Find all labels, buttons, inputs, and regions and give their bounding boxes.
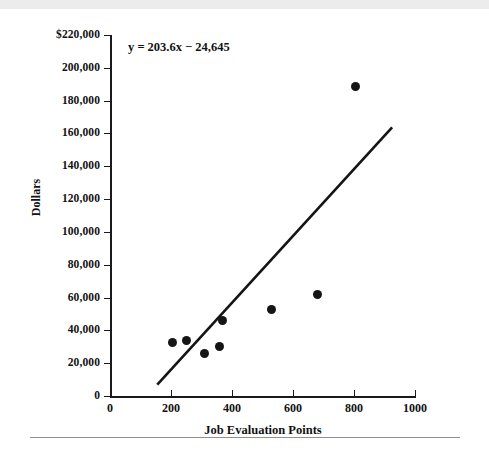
- y-axis-tick-label: 140,000: [0, 159, 100, 171]
- x-axis-tick-label: 600: [263, 401, 323, 416]
- y-axis-tick: [104, 232, 110, 233]
- x-axis-tick-label: 200: [141, 401, 201, 416]
- y-axis-tick: [104, 330, 110, 331]
- page-bottom-rule: [30, 437, 460, 438]
- y-axis-tick: [104, 396, 110, 397]
- y-axis-tick-label-wrap: 120,000: [0, 192, 100, 206]
- y-axis-tick-label-wrap: $220,000: [0, 28, 100, 42]
- y-axis-tick-label-wrap: 160,000: [0, 126, 100, 140]
- regression-equation-annotation: y = 203.6x − 24,645: [128, 40, 230, 55]
- y-axis-tick-label: 120,000: [0, 192, 100, 204]
- y-axis-tick-label: 40,000: [0, 323, 100, 335]
- y-axis-tick-label: 100,000: [0, 225, 100, 237]
- x-axis-tick: [415, 390, 416, 396]
- y-axis-tick: [104, 265, 110, 266]
- data-point: [313, 290, 322, 299]
- y-axis-tick-label-wrap: 140,000: [0, 159, 100, 173]
- y-axis-tick-label-wrap: 100,000: [0, 225, 100, 239]
- y-axis-tick: [104, 166, 110, 167]
- data-point: [351, 82, 360, 91]
- y-axis-tick: [104, 199, 110, 200]
- data-point: [182, 336, 191, 345]
- x-axis-tick: [171, 390, 172, 396]
- y-axis-tick-label: 200,000: [0, 61, 100, 73]
- y-axis-tick-label-wrap: 180,000: [0, 94, 100, 108]
- y-axis-tick-label-wrap: 80,000: [0, 258, 100, 272]
- data-point: [215, 342, 224, 351]
- y-axis-tick-label: 60,000: [0, 291, 100, 303]
- y-axis-tick-label-wrap: 20,000: [0, 356, 100, 370]
- y-axis-tick: [104, 133, 110, 134]
- y-axis-title: Dollars: [29, 148, 44, 248]
- y-axis-tick: [104, 363, 110, 364]
- scatter-chart: 020,00040,00060,00080,000100,000120,0001…: [0, 0, 489, 453]
- x-axis-line: [110, 396, 416, 398]
- y-axis-tick-label: 20,000: [0, 356, 100, 368]
- y-axis-tick-label: 180,000: [0, 94, 100, 106]
- y-axis-tick-label-wrap: 40,000: [0, 323, 100, 337]
- x-axis-tick: [110, 390, 111, 396]
- data-point: [267, 305, 276, 314]
- y-axis-tick: [104, 68, 110, 69]
- y-axis-tick-label: 0: [0, 389, 100, 401]
- x-axis-tick: [354, 390, 355, 396]
- x-axis-tick-label: 400: [202, 401, 262, 416]
- y-axis-tick-label-wrap: 200,000: [0, 61, 100, 75]
- x-axis-tick: [293, 390, 294, 396]
- y-axis-tick-label: $220,000: [0, 28, 100, 40]
- y-axis-tick: [104, 298, 110, 299]
- y-axis-line: [110, 35, 112, 397]
- data-point: [218, 316, 227, 325]
- figure-container: 020,00040,00060,00080,000100,000120,0001…: [0, 0, 489, 453]
- x-axis-tick-label: 800: [324, 401, 384, 416]
- y-axis-tick-label: 80,000: [0, 258, 100, 270]
- x-axis-tick: [232, 390, 233, 396]
- y-axis-tick: [104, 101, 110, 102]
- regression-trendline: [157, 127, 392, 384]
- x-axis-tick-label: 1000: [385, 401, 445, 416]
- data-point: [168, 338, 177, 347]
- y-axis-tick-label: 160,000: [0, 126, 100, 138]
- x-axis-tick-label: 0: [80, 401, 140, 416]
- data-point: [200, 349, 209, 358]
- y-axis-tick-label-wrap: 60,000: [0, 291, 100, 305]
- y-axis-tick: [104, 35, 110, 36]
- x-axis-title: Job Evaluation Points: [110, 423, 416, 438]
